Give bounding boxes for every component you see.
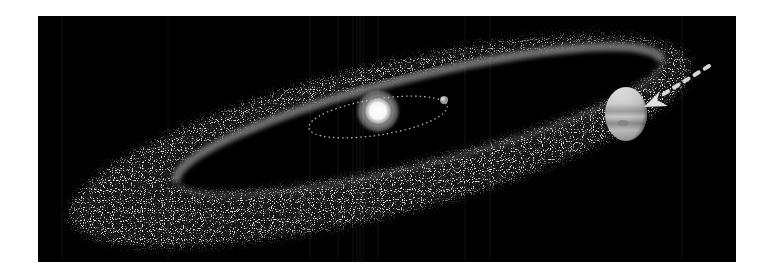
inner-planet-highlight <box>441 97 445 101</box>
illustration-panel: Illustration of a debris/asteroid belt a… <box>38 16 736 262</box>
great-red-spot <box>617 120 629 126</box>
solar-system-illustration <box>38 16 736 262</box>
jupiter <box>605 87 647 141</box>
